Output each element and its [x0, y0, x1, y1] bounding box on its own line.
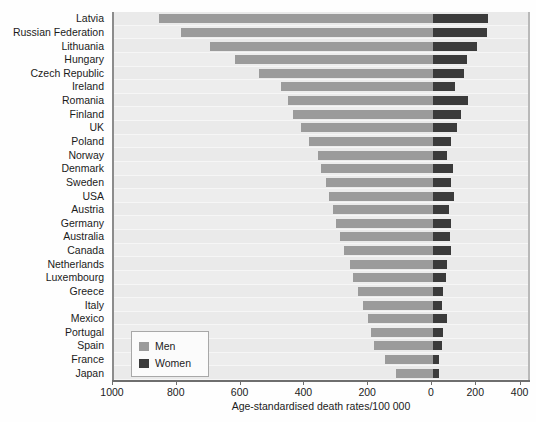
row-band	[114, 271, 530, 285]
bar-women	[433, 260, 447, 269]
y-axis-label: Greece	[0, 286, 104, 297]
bar-men	[336, 219, 433, 228]
bar-women	[433, 341, 442, 350]
x-axis-tick-label: 400	[273, 386, 333, 398]
legend-label-women: Women	[155, 357, 191, 369]
y-axis-label: Lithuania	[0, 41, 104, 52]
row-band	[114, 244, 530, 258]
y-axis-label: Netherlands	[0, 259, 104, 270]
y-axis-label: Italy	[0, 300, 104, 311]
y-axis-label: Portugal	[0, 327, 104, 338]
bar-men	[326, 178, 433, 187]
bar-women	[433, 42, 477, 51]
bar-men	[235, 55, 433, 64]
x-axis-tick-label: 200	[337, 386, 397, 398]
bar-women	[433, 137, 451, 146]
y-axis-label: Denmark	[0, 163, 104, 174]
bar-women	[433, 28, 487, 37]
x-axis-tick	[367, 380, 368, 385]
bar-men	[288, 96, 433, 105]
plot-area	[112, 12, 530, 380]
row-band	[114, 257, 530, 271]
x-axis-tick	[520, 380, 521, 385]
bar-men	[340, 232, 433, 241]
y-axis-label: Finland	[0, 109, 104, 120]
x-axis-tick	[303, 380, 304, 385]
bar-men	[353, 273, 433, 282]
y-axis-category-labels: LatviaRussian FederationLithuaniaHungary…	[0, 12, 108, 380]
bar-men	[344, 246, 433, 255]
x-axis-tick	[240, 380, 241, 385]
bar-women	[433, 164, 453, 173]
bar-men	[371, 328, 433, 337]
y-axis-label: Mexico	[0, 313, 104, 324]
y-axis-label: Australia	[0, 231, 104, 242]
bar-men	[318, 151, 433, 160]
bar-men	[333, 205, 433, 214]
y-axis-label: Canada	[0, 245, 104, 256]
bar-women	[433, 96, 468, 105]
legend-swatch-men	[139, 342, 149, 351]
bar-women	[433, 178, 451, 187]
bar-women	[433, 14, 488, 23]
bar-women	[433, 328, 443, 337]
y-axis-label: Spain	[0, 340, 104, 351]
bar-women	[433, 69, 464, 78]
bar-women	[433, 369, 439, 378]
bar-men	[159, 14, 433, 23]
bar-men	[281, 82, 433, 91]
y-axis-label: Poland	[0, 136, 104, 147]
y-axis-label: Japan	[0, 368, 104, 379]
row-band	[114, 176, 530, 190]
bar-women	[433, 55, 467, 64]
x-axis-tick	[176, 380, 177, 385]
x-axis-tick-label: 1000	[82, 386, 142, 398]
row-band	[114, 203, 530, 217]
x-axis-tick	[431, 380, 432, 385]
bar-men	[321, 164, 433, 173]
bar-women	[433, 287, 443, 296]
bar-men	[329, 192, 433, 201]
y-axis-label: Latvia	[0, 13, 104, 24]
bar-women	[433, 301, 442, 310]
bar-men	[259, 69, 433, 78]
bar-women	[433, 151, 447, 160]
bar-women	[433, 246, 451, 255]
x-axis-tick-label: 800	[146, 386, 206, 398]
plot-right-border	[528, 12, 530, 380]
bar-men	[396, 369, 433, 378]
row-band	[114, 189, 530, 203]
bar-men	[293, 110, 433, 119]
y-axis-label: Luxembourg	[0, 272, 104, 283]
bar-women	[433, 110, 461, 119]
row-band	[114, 298, 530, 312]
legend-label-men: Men	[155, 340, 175, 352]
row-band	[114, 285, 530, 299]
y-axis-label: Austria	[0, 204, 104, 215]
bar-men	[374, 341, 433, 350]
bar-men	[210, 42, 433, 51]
y-axis-label: Russian Federation	[0, 27, 104, 38]
bar-women	[433, 192, 454, 201]
legend-item-women: Women	[139, 356, 191, 370]
bar-men	[385, 355, 433, 364]
bar-men	[358, 287, 433, 296]
y-axis-label: USA	[0, 191, 104, 202]
y-axis-label: Germany	[0, 218, 104, 229]
bar-women	[433, 219, 451, 228]
y-axis-label: Ireland	[0, 81, 104, 92]
y-axis-label: UK	[0, 122, 104, 133]
y-axis-label: Sweden	[0, 177, 104, 188]
bar-women	[433, 355, 439, 364]
legend-item-men: Men	[139, 339, 175, 353]
bar-men	[363, 301, 433, 310]
row-band	[114, 230, 530, 244]
bar-men	[181, 28, 433, 37]
row-band	[114, 216, 530, 230]
bar-men	[368, 314, 433, 323]
y-axis-label: Norway	[0, 150, 104, 161]
y-axis-label: Czech Republic	[0, 68, 104, 79]
x-axis-tick-label: 400	[490, 386, 536, 398]
x-axis-tick	[475, 380, 476, 385]
bar-men	[350, 260, 433, 269]
